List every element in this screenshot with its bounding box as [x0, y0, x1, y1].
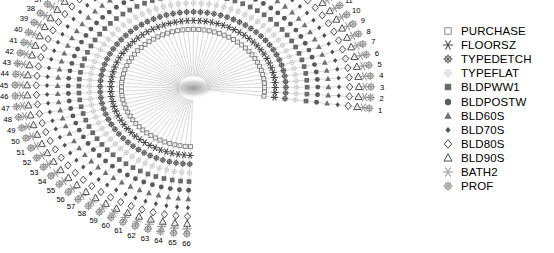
data-marker-floorsz — [142, 140, 148, 145]
radial-profile-chart: 1234567891011121314151617181920212223242… — [0, 0, 554, 253]
data-marker-bldpww1 — [135, 4, 140, 9]
data-marker-bldpww1 — [233, 0, 238, 3]
data-marker-typedetch — [282, 73, 288, 79]
legend-item[interactable]: BLDPOSTW — [440, 94, 554, 108]
data-marker-bldpww1 — [285, 33, 290, 38]
data-marker-bld60s — [302, 22, 308, 27]
data-marker-typeflat — [92, 59, 97, 64]
data-marker-bldpww1 — [248, 5, 253, 10]
data-marker-typeflat — [293, 98, 298, 103]
data-marker-floorsz — [114, 60, 120, 65]
data-marker-bldpww1 — [289, 39, 294, 44]
data-marker-typeflat — [89, 103, 94, 108]
legend-item[interactable]: FLOORSZ — [440, 38, 554, 52]
data-marker-typeflat — [130, 154, 135, 159]
data-marker-bldpostw — [94, 21, 99, 26]
spoke-number-label: 65 — [168, 238, 176, 247]
data-marker-bld60s — [165, 194, 171, 199]
data-marker-bld60s — [69, 35, 75, 40]
legend-item[interactable]: PURCHASE — [440, 24, 554, 38]
data-marker-typedetch — [282, 79, 288, 85]
legend-item[interactable]: PROF — [440, 179, 554, 193]
circle-faint-icon — [445, 70, 451, 76]
data-marker-bldpostw — [282, 16, 287, 21]
data-marker-bld60s — [282, 3, 288, 8]
legend-item[interactable]: BATH2 — [440, 165, 554, 179]
data-marker-typeflat — [88, 97, 93, 102]
data-marker-bld90s — [25, 102, 32, 108]
data-marker-typeflat — [187, 171, 192, 176]
spoke-number-label: 55 — [47, 186, 55, 195]
data-marker-typeflat — [106, 37, 111, 42]
data-marker-bld70s — [133, 196, 137, 201]
data-marker-bld90s — [355, 93, 362, 99]
square-open-icon — [440, 24, 456, 38]
data-marker-typedetch — [138, 21, 144, 27]
data-marker-prof — [11, 81, 19, 89]
data-marker-typeflat — [140, 12, 145, 17]
legend-item[interactable]: BLD80S — [440, 137, 554, 151]
data-marker-typedetch — [98, 95, 104, 101]
data-marker-prof — [12, 70, 20, 78]
data-marker-bldpostw — [77, 128, 82, 133]
data-marker-bldpostw — [150, 182, 155, 187]
data-marker-typeflat — [89, 71, 94, 76]
data-marker-typeflat — [100, 126, 105, 131]
data-marker-bldpostw — [97, 153, 102, 158]
data-marker-bld70s — [66, 24, 70, 29]
data-marker-bld70s — [311, 18, 315, 23]
data-marker-typeflat — [96, 121, 101, 126]
data-marker-typedetch — [160, 157, 166, 163]
data-marker-typeflat — [287, 54, 292, 59]
data-marker-typeflat — [267, 28, 272, 33]
data-marker-prof — [183, 230, 191, 238]
data-marker-typedetch — [170, 10, 176, 16]
data-marker-bldpww1 — [111, 152, 116, 157]
spoke-number-label: 38 — [27, 4, 35, 13]
data-marker-floorsz — [169, 151, 175, 156]
spoke-number-label: 49 — [7, 126, 15, 135]
spoke-number-label: 8 — [366, 27, 370, 36]
data-marker-typeflat — [95, 53, 100, 58]
data-marker-typeflat — [154, 6, 159, 11]
data-marker-bldpww1 — [83, 118, 88, 123]
data-marker-bldpww1 — [178, 179, 183, 184]
data-marker-typedetch — [258, 33, 264, 39]
data-marker-bldpww1 — [262, 12, 267, 17]
spoke-number-label: 10 — [352, 6, 360, 15]
legend-item[interactable]: BLD90S — [440, 151, 554, 165]
legend-item[interactable]: BLD70S — [440, 123, 554, 137]
spoke-number-label: 64 — [154, 236, 162, 245]
data-marker-prof — [354, 30, 362, 38]
data-marker-bldpww1 — [170, 178, 175, 183]
data-marker-typeflat — [255, 19, 260, 24]
data-marker-bldpostw — [314, 70, 319, 75]
data-marker-bldpostw — [66, 83, 71, 88]
data-marker-bld90s — [354, 103, 361, 109]
data-marker-typedetch — [97, 89, 103, 95]
legend-item[interactable]: TYPEFLAT — [440, 66, 554, 80]
data-marker-typedetch — [97, 83, 103, 89]
data-marker-bld60s — [326, 84, 332, 89]
data-marker-bld60s — [156, 192, 162, 197]
data-marker-typedetch — [166, 159, 172, 165]
data-marker-typeflat — [116, 27, 121, 32]
data-marker-typedetch — [204, 10, 210, 16]
legend-item[interactable]: BLD60S — [440, 109, 554, 123]
data-marker-typeflat — [104, 132, 109, 137]
data-marker-bld60s — [82, 152, 88, 157]
legend-item[interactable]: BLDPWW1 — [440, 80, 554, 94]
data-marker-bldpww1 — [150, 0, 155, 3]
spoke-number-label: 51 — [17, 148, 25, 157]
legend-item[interactable]: TYPEDETCH — [440, 52, 554, 66]
data-marker-typeflat — [121, 23, 126, 28]
legend-item-label: PURCHASE — [456, 24, 526, 38]
data-marker-floorsz — [144, 29, 150, 34]
data-marker-floorsz — [272, 85, 278, 90]
data-marker-bldpww1 — [300, 58, 305, 63]
data-marker-typeflat — [172, 169, 177, 174]
spoke-number-label: 6 — [375, 49, 379, 58]
data-marker-typedetch — [282, 95, 288, 101]
data-marker-bld70s — [322, 33, 326, 38]
data-marker-bldpww1 — [87, 124, 92, 129]
